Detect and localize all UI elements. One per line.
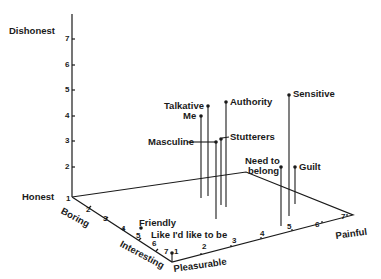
point-guilt — [293, 165, 297, 169]
d-tick-7: 7 — [164, 248, 168, 256]
v-tick-4: 4 — [65, 112, 69, 120]
point-sensitive — [287, 93, 291, 97]
v-tick-5: 5 — [65, 86, 69, 94]
d-tick-4: 4 — [121, 225, 125, 233]
h-tick-2: 2 — [202, 243, 206, 251]
label-me: Me — [183, 111, 196, 121]
label-like-id-like-to-be: Like I'd like to be — [151, 230, 227, 240]
point-masculine — [214, 140, 218, 144]
point-me — [199, 114, 203, 118]
v-tick-7: 7 — [65, 35, 69, 43]
d-tick-3: 3 — [103, 215, 107, 223]
h-tick-4: 4 — [260, 230, 264, 238]
label-stutterers: Stutterers — [230, 132, 275, 142]
h-tick-3: 3 — [232, 237, 236, 245]
d-tick-5: 5 — [136, 232, 140, 240]
h-tick-5: 5 — [287, 223, 291, 231]
point-stutterers — [219, 137, 223, 141]
label-friendly: Friendly — [139, 218, 176, 228]
v-tick-1: 1 — [66, 195, 70, 203]
v-tick-3: 3 — [65, 137, 69, 145]
d-tick-6: 6 — [152, 240, 156, 248]
floor-plane — [72, 172, 353, 262]
h-tick-1: 1 — [174, 248, 178, 256]
label-belong: belong — [248, 166, 279, 176]
label-masculine: Masculine — [148, 137, 194, 147]
h-tick-7: 7 — [341, 213, 345, 221]
point-talkative — [206, 104, 210, 108]
v-tick-2: 2 — [65, 163, 69, 171]
leader-stutterers — [222, 137, 229, 138]
v-tick-6: 6 — [65, 61, 69, 69]
honest-label: Honest — [22, 192, 54, 202]
h-tick-6: 6 — [315, 221, 319, 229]
d-tick-2: 2 — [86, 206, 90, 214]
label-guilt: Guilt — [299, 162, 321, 172]
dishonest-label: Dishonest — [9, 26, 55, 36]
label-sensitive: Sensitive — [293, 89, 335, 99]
label-authority: Authority — [230, 97, 272, 107]
point-authority — [224, 100, 228, 104]
